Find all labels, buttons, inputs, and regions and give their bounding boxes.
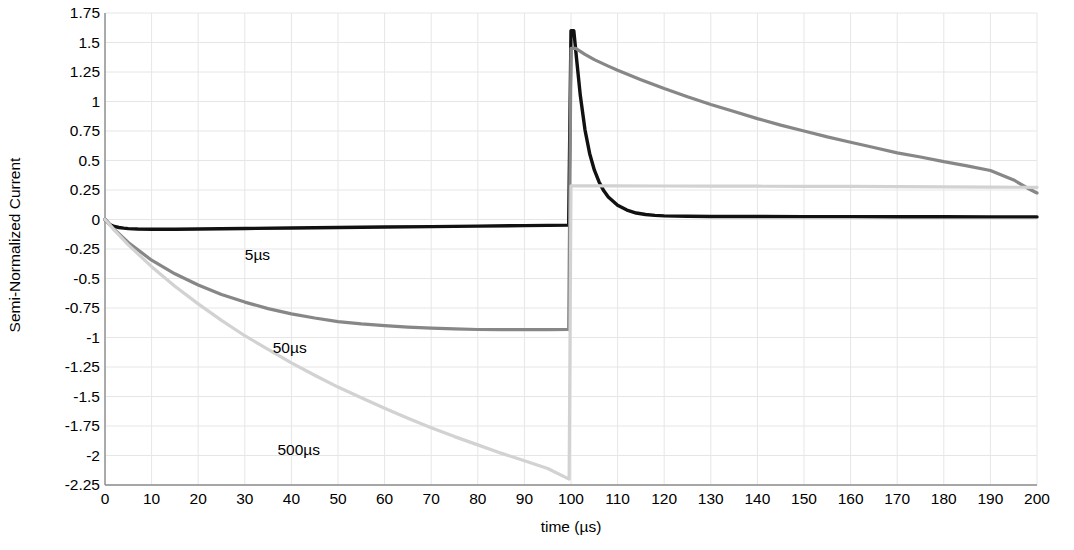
- x-tick-label: 90: [516, 491, 533, 507]
- x-tick-label: 0: [101, 491, 110, 507]
- x-tick-label: 180: [931, 491, 957, 507]
- x-axis-title: time (µs): [105, 518, 1037, 536]
- x-tick-label: 120: [651, 491, 677, 507]
- x-tick-label: 200: [1024, 491, 1050, 507]
- x-tick-label: 130: [698, 491, 724, 507]
- x-tick-label: 100: [558, 491, 584, 507]
- x-tick-label: 10: [143, 491, 160, 507]
- x-tick-label: 60: [376, 491, 393, 507]
- chart-container: Semi-Normalized Current 1.751.51.2510.75…: [0, 0, 1074, 550]
- series-label-5s: 5µs: [245, 247, 270, 263]
- x-tick-label: 80: [469, 491, 486, 507]
- x-axis-title-text: time (µs): [541, 518, 602, 535]
- x-tick-label: 110: [605, 491, 630, 507]
- x-tick-label: 160: [838, 491, 864, 507]
- x-tick-label: 20: [190, 491, 207, 507]
- series-label-500s: 500µs: [277, 442, 320, 458]
- x-tick-label: 140: [744, 491, 770, 507]
- x-tick-label: 50: [329, 491, 346, 507]
- x-tick-label: 150: [791, 491, 817, 507]
- x-tick-label: 70: [423, 491, 440, 507]
- x-tick-label: 30: [236, 491, 253, 507]
- series-label-50s: 50µs: [273, 340, 307, 356]
- x-tick-label: 170: [884, 491, 910, 507]
- plot-area: [0, 0, 1074, 550]
- x-tick-label: 40: [283, 491, 300, 507]
- x-tick-label: 190: [977, 491, 1003, 507]
